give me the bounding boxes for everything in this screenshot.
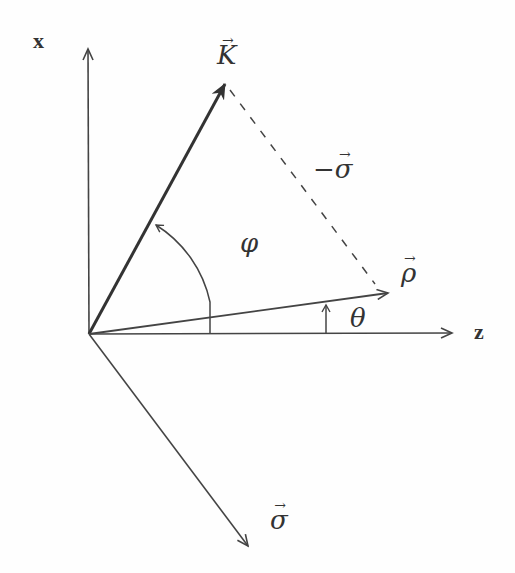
z-axis-label: z bbox=[474, 321, 484, 343]
sigma-vector bbox=[89, 334, 248, 546]
theta-label: θ bbox=[350, 305, 366, 331]
neg-sigma-label: −→σ bbox=[313, 156, 353, 182]
vector-diagram: x z →K −→σ →ρ φ θ →σ bbox=[0, 0, 515, 573]
rho-label: →ρ bbox=[401, 260, 416, 286]
sigma-label: →σ bbox=[270, 507, 288, 533]
k-label: →K bbox=[217, 42, 236, 68]
z-axis bbox=[89, 333, 452, 334]
vector-arrow-icon: → bbox=[404, 251, 416, 265]
diagram-lines bbox=[0, 0, 515, 573]
vector-arrow-icon: → bbox=[274, 498, 286, 512]
x-axis-label: x bbox=[33, 30, 44, 52]
x-axis bbox=[88, 49, 89, 334]
phi-label: φ bbox=[240, 230, 258, 256]
k-vector bbox=[89, 84, 225, 334]
vector-arrow-icon: → bbox=[339, 147, 351, 161]
vector-arrow-icon: → bbox=[222, 33, 234, 47]
rho-vector bbox=[89, 293, 388, 334]
